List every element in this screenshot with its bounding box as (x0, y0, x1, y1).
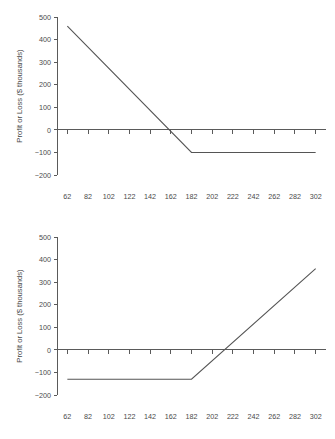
x-tick-label: 82 (84, 412, 92, 421)
x-tick-label: 62 (63, 412, 71, 421)
y-tick-label: 300 (39, 278, 51, 287)
chart-panel-top: −200−10001002003004005006282102122142162… (0, 0, 335, 219)
x-tick-label: 262 (268, 412, 280, 421)
y-tick-label: 500 (39, 13, 51, 22)
chart-panel-bottom: −200−10001002003004005006282102122142162… (0, 220, 335, 439)
data-series-line (67, 269, 315, 380)
x-tick-label: 262 (268, 192, 280, 201)
y-tick-label: −100 (35, 368, 51, 377)
x-tick-label: 122 (123, 192, 135, 201)
x-tick-label: 182 (186, 192, 198, 201)
x-tick-label: 142 (144, 192, 156, 201)
y-tick-label: 400 (39, 35, 51, 44)
x-tick-label: 82 (84, 192, 92, 201)
x-tick-label: 102 (103, 412, 115, 421)
x-tick-label: 202 (206, 412, 218, 421)
y-tick-label: 0 (47, 346, 51, 355)
chart-canvas-top: −200−10001002003004005006282102122142162… (0, 0, 335, 219)
x-tick-label: 222 (227, 412, 239, 421)
y-tick-label: 200 (39, 300, 51, 309)
x-tick-label: 162 (165, 192, 177, 201)
x-tick-label: 182 (186, 412, 198, 421)
x-tick-label: 202 (206, 192, 218, 201)
chart-canvas-bottom: −200−10001002003004005006282102122142162… (0, 220, 335, 439)
y-tick-label: 100 (39, 323, 51, 332)
x-tick-label: 282 (289, 192, 301, 201)
y-axis-title: Profit or Loss ($ thousands) (15, 49, 24, 143)
y-tick-label: 500 (39, 233, 51, 242)
x-tick-label: 102 (103, 192, 115, 201)
figure-container: −200−10001002003004005006282102122142162… (0, 0, 335, 439)
x-tick-label: 62 (63, 192, 71, 201)
y-tick-label: 100 (39, 103, 51, 112)
x-tick-label: 302 (310, 412, 322, 421)
y-tick-label: 400 (39, 255, 51, 264)
x-tick-label: 142 (144, 412, 156, 421)
y-tick-label: −200 (35, 391, 51, 400)
x-tick-label: 242 (248, 412, 260, 421)
y-tick-label: 0 (47, 126, 51, 135)
x-tick-label: 282 (289, 412, 301, 421)
y-tick-label: −100 (35, 148, 51, 157)
x-tick-label: 122 (123, 412, 135, 421)
y-tick-label: 200 (39, 80, 51, 89)
x-tick-label: 242 (248, 192, 260, 201)
x-tick-label: 302 (310, 192, 322, 201)
x-tick-label: 222 (227, 192, 239, 201)
y-tick-label: 300 (39, 58, 51, 67)
y-axis-title: Profit or Loss ($ thousands) (15, 269, 24, 363)
y-tick-label: −200 (35, 171, 51, 180)
x-tick-label: 162 (165, 412, 177, 421)
